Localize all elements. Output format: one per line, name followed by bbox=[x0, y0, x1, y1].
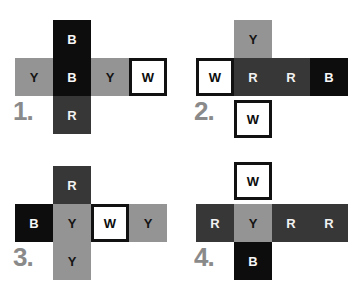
net-4-top-face: W bbox=[234, 162, 272, 200]
net-4-row-face-3: R bbox=[272, 204, 310, 242]
net-1-row-face-1: Y bbox=[15, 58, 53, 96]
face-letter: Y bbox=[144, 217, 153, 230]
net-1-label: 1. bbox=[13, 98, 33, 124]
net-2-row-face-2: R bbox=[234, 58, 272, 96]
face-letter: Y bbox=[106, 71, 115, 84]
face-letter: W bbox=[142, 71, 154, 84]
face-letter: B bbox=[324, 71, 333, 84]
net-1-row-face-2: B bbox=[53, 58, 91, 96]
face-letter: W bbox=[247, 113, 259, 126]
face-letter: Y bbox=[249, 217, 258, 230]
face-letter: Y bbox=[68, 255, 77, 268]
net-4-label: 4. bbox=[194, 244, 214, 270]
net-1-row-face-3: Y bbox=[91, 58, 129, 96]
net-3-row-face-2: Y bbox=[53, 204, 91, 242]
face-letter: R bbox=[248, 71, 257, 84]
face-letter: Y bbox=[30, 71, 39, 84]
net-2-bottom-face: W bbox=[234, 100, 272, 138]
face-letter: W bbox=[104, 217, 116, 230]
face-letter: R bbox=[210, 217, 219, 230]
face-letter: B bbox=[29, 217, 38, 230]
net-1-bottom-face: R bbox=[53, 96, 91, 134]
face-letter: W bbox=[247, 175, 259, 188]
net-3-label: 3. bbox=[13, 244, 33, 270]
net-4-row-face-2: Y bbox=[234, 204, 272, 242]
face-letter: W bbox=[209, 71, 221, 84]
net-3-row-face-1: B bbox=[15, 204, 53, 242]
face-letter: B bbox=[248, 255, 257, 268]
net-2-top-face: Y bbox=[234, 20, 272, 58]
face-letter: R bbox=[286, 217, 295, 230]
net-2-row-face-4: B bbox=[310, 58, 348, 96]
net-3-row-face-4: Y bbox=[129, 204, 167, 242]
net-2-row-face-3: R bbox=[272, 58, 310, 96]
face-letter: B bbox=[67, 33, 76, 46]
face-letter: R bbox=[67, 179, 76, 192]
net-3-row-face-3: W bbox=[91, 204, 129, 242]
net-1-row-face-4: W bbox=[129, 58, 167, 96]
cube-net-option-3[interactable]: R B Y W Y Y 3. bbox=[0, 146, 181, 292]
net-2-label: 2. bbox=[194, 98, 214, 124]
net-3-top-face: R bbox=[53, 166, 91, 204]
net-3-bottom-face: Y bbox=[53, 242, 91, 280]
face-letter: B bbox=[67, 71, 76, 84]
net-2-row-face-1: W bbox=[196, 58, 234, 96]
net-4-bottom-face: B bbox=[234, 242, 272, 280]
net-1-top-face: B bbox=[53, 20, 91, 58]
face-letter: Y bbox=[68, 217, 77, 230]
face-letter: R bbox=[324, 217, 333, 230]
net-4-row-face-1: R bbox=[196, 204, 234, 242]
net-4-row-face-4: R bbox=[310, 204, 348, 242]
face-letter: R bbox=[286, 71, 295, 84]
cube-net-option-1[interactable]: B Y B Y W R 1. bbox=[0, 0, 181, 146]
face-letter: R bbox=[67, 109, 76, 122]
face-letter: Y bbox=[249, 33, 258, 46]
cube-net-option-4[interactable]: W R Y R R B 4. bbox=[181, 146, 362, 292]
cube-net-options-sheet: B Y B Y W R 1. Y W R R B bbox=[0, 0, 362, 292]
cube-net-option-2[interactable]: Y W R R B W 2. bbox=[181, 0, 362, 146]
